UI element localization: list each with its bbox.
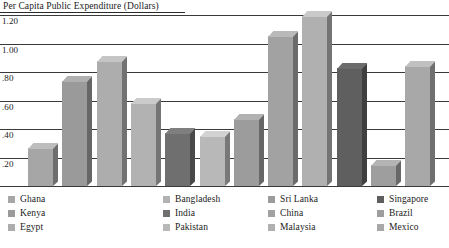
bar-top-face <box>371 160 401 166</box>
bar-front-face <box>62 81 87 186</box>
legend-item: Malaysia <box>268 220 318 234</box>
bar-front-face <box>200 136 225 186</box>
legend-item: Bangladesh <box>163 192 220 206</box>
legend-item: Pakistan <box>163 220 220 234</box>
legend-swatch-icon <box>163 196 170 203</box>
bar-top-face <box>337 63 367 69</box>
legend-label: Bangladesh <box>175 194 220 205</box>
bar-mexico <box>405 66 430 186</box>
legend-item: Kenya <box>8 206 45 220</box>
bar-sri-lanka <box>234 119 259 186</box>
legend-column: SingaporeBrazilMexico <box>377 192 428 234</box>
legend-item: Sri Lanka <box>268 192 318 206</box>
legend-label: Singapore <box>389 194 428 205</box>
bar-kenya <box>62 81 87 186</box>
bar-front-face <box>302 16 327 186</box>
bar-top-face <box>62 76 92 82</box>
legend-label: Kenya <box>20 208 45 219</box>
legend-swatch-icon <box>8 210 15 217</box>
bar-front-face <box>337 68 362 186</box>
bar-front-face <box>28 148 53 186</box>
plot-area: 1.201.00.80.60.40.20 <box>0 12 449 188</box>
legend-swatch-icon <box>163 224 170 231</box>
legend-swatch-icon <box>8 196 15 203</box>
chart-legend: GhanaKenyaEgyptBangladeshIndiaPakistanSr… <box>0 192 449 248</box>
legend-swatch-icon <box>377 210 384 217</box>
legend-label: Sri Lanka <box>280 194 318 205</box>
bar-china <box>268 36 293 186</box>
bar-side-face <box>362 63 367 186</box>
legend-label: Pakistan <box>175 222 208 233</box>
bar-front-face <box>405 66 430 186</box>
legend-label: Egypt <box>20 222 43 233</box>
legend-item: Ghana <box>8 192 45 206</box>
legend-item: Mexico <box>377 220 428 234</box>
bar-pakistan <box>200 136 225 186</box>
bar-ghana <box>28 148 53 186</box>
bar-side-face <box>259 115 264 186</box>
bar-side-face <box>293 32 298 186</box>
legend-swatch-icon <box>163 210 170 217</box>
x-axis-line <box>0 186 449 187</box>
bar-side-face <box>87 76 92 186</box>
bar-side-face <box>190 129 195 186</box>
legend-column: Sri LankaChinaMalaysia <box>268 192 318 234</box>
legend-item: Brazil <box>377 206 428 220</box>
bar-bangladesh <box>131 103 156 186</box>
legend-item: Singapore <box>377 192 428 206</box>
bar-india <box>165 133 190 186</box>
bar-egypt <box>97 61 122 186</box>
legend-label: China <box>280 208 303 219</box>
bar-malaysia <box>302 16 327 186</box>
bar-side-face <box>156 99 161 186</box>
legend-item: India <box>163 206 220 220</box>
bar-top-face <box>97 56 127 62</box>
legend-item: China <box>268 206 318 220</box>
legend-label: India <box>175 208 195 219</box>
bar-side-face <box>327 12 332 186</box>
bar-top-face <box>200 131 230 137</box>
bar-brazil <box>371 165 396 186</box>
bar-side-face <box>122 56 127 186</box>
bar-front-face <box>131 103 156 186</box>
chart-title: Per Capita Public Expenditure (Dollars) <box>3 1 159 12</box>
bar-front-face <box>234 119 259 186</box>
legend-swatch-icon <box>377 224 384 231</box>
legend-column: BangladeshIndiaPakistan <box>163 192 220 234</box>
bar-side-face <box>53 143 58 186</box>
bar-top-face <box>234 114 264 120</box>
legend-swatch-icon <box>268 224 275 231</box>
legend-label: Brazil <box>389 208 413 219</box>
bar-front-face <box>371 165 396 186</box>
bar-side-face <box>430 62 435 186</box>
bar-front-face <box>97 61 122 186</box>
bar-series <box>0 12 449 188</box>
bar-singapore <box>337 68 362 186</box>
bar-top-face <box>28 143 58 149</box>
legend-label: Ghana <box>20 194 45 205</box>
legend-label: Mexico <box>389 222 419 233</box>
legend-swatch-icon <box>268 210 275 217</box>
legend-swatch-icon <box>377 196 384 203</box>
bar-front-face <box>165 133 190 186</box>
chart-figure: Per Capita Public Expenditure (Dollars) … <box>0 0 449 248</box>
bar-front-face <box>268 36 293 186</box>
legend-swatch-icon <box>268 196 275 203</box>
bar-side-face <box>225 132 230 186</box>
legend-swatch-icon <box>8 224 15 231</box>
legend-column: GhanaKenyaEgypt <box>8 192 45 234</box>
legend-label: Malaysia <box>280 222 316 233</box>
legend-item: Egypt <box>8 220 45 234</box>
